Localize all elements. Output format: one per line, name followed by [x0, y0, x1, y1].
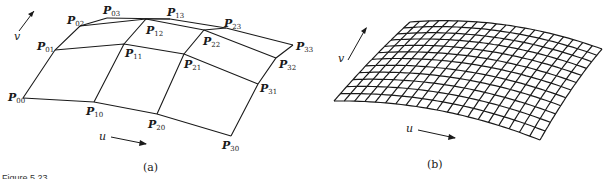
control-point-label: P22 — [202, 35, 220, 49]
v-direction-arrow-a — [19, 11, 34, 31]
control-point-label: P30 — [221, 139, 239, 153]
control-point-label: P11 — [124, 47, 142, 61]
control-point-label: P03 — [102, 4, 120, 18]
panel-a-control-net: P00P10P20P30P01P11P21P31P02P12P22P32P03P… — [0, 0, 607, 179]
v-axis-label-b: v — [338, 52, 345, 65]
control-point-label: P33 — [295, 40, 313, 54]
net-u-line-1 — [55, 44, 258, 84]
v-axis-label-a: v — [14, 30, 21, 43]
bezier-surface-figure: P00P10P20P30P01P11P21P31P02P12P22P32P03P… — [0, 0, 607, 179]
panel-a-caption: (a) — [143, 161, 158, 174]
control-point-label: P32 — [278, 58, 296, 72]
figure-caption: Figure 5.23 — [2, 173, 48, 179]
control-point-label: P00 — [7, 91, 25, 105]
net-v-line-0 — [23, 18, 107, 98]
mesh-u-isoline — [410, 21, 602, 49]
v-direction-arrow-b — [348, 27, 367, 60]
control-point-label: P20 — [147, 118, 165, 132]
control-point-label: P23 — [223, 17, 241, 31]
net-u-line-0 — [23, 98, 231, 136]
u-axis-label-a: u — [99, 130, 106, 143]
u-direction-arrow-a — [111, 137, 147, 146]
control-point-labels: P00P10P20P30P01P11P21P31P02P12P22P32P03P… — [7, 4, 313, 153]
u-direction-arrow-b — [418, 130, 456, 140]
control-point-label: P13 — [166, 6, 184, 20]
control-point-label: P02 — [66, 14, 84, 28]
mesh-u-isoline — [340, 94, 545, 131]
control-point-label: P31 — [259, 82, 277, 96]
control-point-label: P01 — [36, 40, 54, 54]
bezier-surface-mesh — [334, 21, 602, 140]
control-point-label: P12 — [145, 24, 163, 38]
panel-b-caption: (b) — [427, 158, 443, 171]
u-axis-label-b: u — [406, 122, 413, 135]
control-point-label: P10 — [85, 105, 103, 119]
net-u-line-2 — [80, 19, 276, 58]
